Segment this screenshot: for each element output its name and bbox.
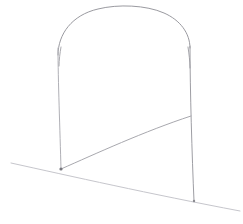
drawing-canvas (0, 0, 243, 224)
left-post-ground-contact-node (59, 167, 62, 170)
paper-background (0, 0, 243, 224)
line-sketch (0, 0, 243, 224)
right-post-ground-contact-node (193, 200, 195, 202)
